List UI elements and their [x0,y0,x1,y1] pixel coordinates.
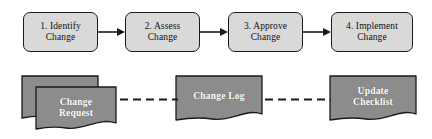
process-box-assess-change[interactable]: 2. Assess Change [125,12,200,52]
process-box-implement-change[interactable]: 4. Implement Change [331,12,413,52]
arrow-step2-to-step3 [200,26,229,38]
process-flow-diagram: 1. Identify Change 2. Assess Change 3. A… [0,0,432,139]
link-change-request-to-change-log [120,98,178,100]
process-box-label: 2. Assess Change [143,21,183,43]
process-box-identify-change[interactable]: 1. Identify Change [23,12,98,52]
document-change-log[interactable]: Change Log [176,76,264,126]
document-label: Change Request [36,97,116,120]
document-update-checklist[interactable]: Update Checklist [330,76,418,126]
arrow-step1-to-step2 [98,26,126,38]
arrow-step3-to-step4 [303,26,332,38]
link-change-log-to-update-checklist [265,98,331,100]
process-box-approve-change[interactable]: 3. Approve Change [228,12,303,52]
process-box-label: 3. Approve Change [242,21,289,43]
process-box-label: 4. Implement Change [344,21,400,43]
document-change-request[interactable]: Change Request [22,76,120,132]
document-label: Change Log [176,91,262,102]
document-label: Update Checklist [330,86,416,109]
process-box-label: 1. Identify Change [38,21,83,43]
